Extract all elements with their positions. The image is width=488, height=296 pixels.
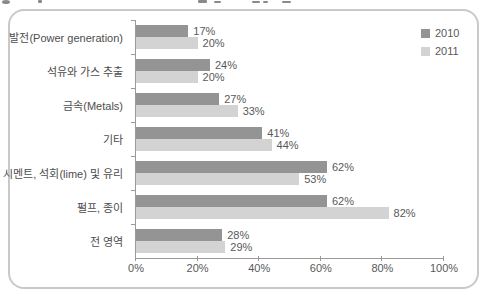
- value-label: 20%: [203, 71, 225, 83]
- category-label: 펄프, 종이: [2, 190, 129, 224]
- bar-2010: [136, 195, 327, 207]
- x-axis-tick: [258, 256, 259, 261]
- y-axis-tick: [131, 88, 136, 89]
- value-label: 27%: [224, 93, 246, 105]
- bar-2011: [136, 37, 198, 49]
- value-label: 53%: [304, 173, 326, 185]
- x-axis-label: 0%: [116, 262, 156, 274]
- y-axis-tick: [131, 190, 136, 191]
- x-axis-tick: [320, 256, 321, 261]
- value-label: 33%: [243, 105, 265, 117]
- category-label: 발전(Power generation): [2, 20, 129, 54]
- bar-2011: [136, 207, 389, 219]
- legend-swatch-2010: [421, 29, 430, 38]
- legend-item-2010: 2010: [421, 27, 459, 40]
- y-axis-tick: [131, 122, 136, 123]
- legend-item-2011: 2011: [421, 45, 459, 58]
- value-label: 41%: [267, 127, 289, 139]
- x-axis-tick: [443, 256, 444, 261]
- value-label: 82%: [394, 207, 416, 219]
- value-label: 24%: [215, 59, 237, 71]
- category-label: 금속(Metals): [2, 88, 129, 122]
- value-label: 17%: [193, 25, 215, 37]
- y-axis-tick: [131, 156, 136, 157]
- x-axis-label: 60%: [301, 262, 341, 274]
- y-axis-tick: [131, 224, 136, 225]
- bar-2010: [136, 25, 188, 37]
- category-label: 전 영역: [2, 224, 129, 258]
- value-label: 44%: [277, 139, 299, 151]
- value-label: 28%: [227, 229, 249, 241]
- cropped-bullet-icon: [2, 0, 10, 4]
- y-axis-tick: [131, 54, 136, 55]
- value-label: 29%: [230, 241, 252, 253]
- bar-2011: [136, 241, 225, 253]
- value-label: 62%: [332, 195, 354, 207]
- bar-2011: [136, 105, 238, 117]
- bar-2011: [136, 71, 198, 83]
- x-axis-tick: [135, 256, 136, 261]
- x-axis-tick: [197, 256, 198, 261]
- value-label: 20%: [203, 37, 225, 49]
- legend: 2010 2011: [421, 27, 459, 63]
- category-label: 석유와 가스 추출: [2, 54, 129, 88]
- plot-area: 17%20%24%20%27%33%41%44%62%53%62%82%28%2…: [135, 20, 444, 259]
- bar-2010: [136, 229, 222, 241]
- category-label: 시멘트, 석회(lime) 및 유리: [2, 156, 129, 190]
- legend-swatch-2011: [421, 47, 430, 56]
- legend-label-2011: 2011: [435, 45, 459, 58]
- category-label: 기타: [2, 122, 129, 156]
- x-axis-tick: [381, 256, 382, 261]
- y-axis-tick: [131, 20, 136, 21]
- bar-2011: [136, 139, 272, 151]
- x-axis-label: 100%: [424, 262, 464, 274]
- x-axis-label: 40%: [239, 262, 279, 274]
- category-axis: 발전(Power generation)석유와 가스 추출금속(Metals)기…: [2, 20, 129, 258]
- x-axis-label: 20%: [178, 262, 218, 274]
- x-axis-label: 80%: [362, 262, 402, 274]
- bar-2010: [136, 127, 262, 139]
- bar-2010: [136, 161, 327, 173]
- bar-2010: [136, 93, 219, 105]
- legend-label-2010: 2010: [435, 27, 459, 40]
- bar-2010: [136, 59, 210, 71]
- value-label: 62%: [332, 161, 354, 173]
- bar-2011: [136, 173, 299, 185]
